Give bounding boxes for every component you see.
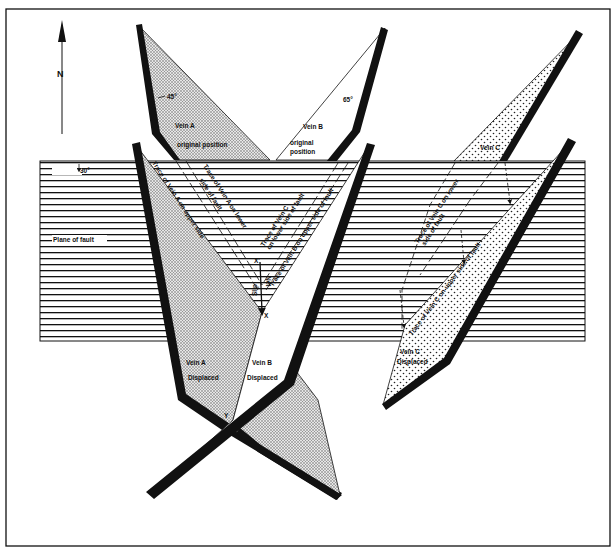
point-x-label: X: [264, 312, 269, 319]
vein-b-original-sublabel-2: position: [290, 148, 315, 156]
vein-a-original: [136, 24, 270, 160]
vein-a-dip: 45°: [167, 93, 177, 100]
vein-b-displaced-label: Vein B: [252, 359, 272, 366]
vein-a-original-sublabel: original position: [177, 141, 228, 149]
vein-b-original-sublabel-1: original: [290, 139, 314, 147]
vein-a-original-label: Vein A: [175, 122, 195, 129]
fault-diagram: N 45° 65° 30° Plane of fault: [0, 0, 616, 553]
north-label: N: [57, 69, 64, 79]
vein-c-displaced-sublabel: Displaced: [397, 358, 428, 366]
vein-b-dip: 65°: [343, 96, 353, 103]
vein-c-original: [452, 30, 583, 163]
vein-a-displaced-sublabel: Displaced: [188, 374, 219, 382]
vein-b-original-label: Vein B: [303, 123, 323, 130]
vein-c-original-label: Vein C: [480, 144, 500, 151]
point-y-label: Y: [224, 412, 229, 419]
point-x-prime-label: X': [254, 257, 260, 264]
slip-label: Slip: [251, 284, 259, 296]
vein-a-displaced-label: Vein A: [186, 359, 206, 366]
vein-b-displaced-sublabel: Displaced: [247, 374, 278, 382]
net-label: Net: [265, 276, 272, 287]
vein-c-displaced-label: Vein C: [400, 348, 420, 355]
fault-plane-label: Plane of fault: [53, 236, 95, 243]
fault-dip-label: 30°: [80, 167, 90, 174]
